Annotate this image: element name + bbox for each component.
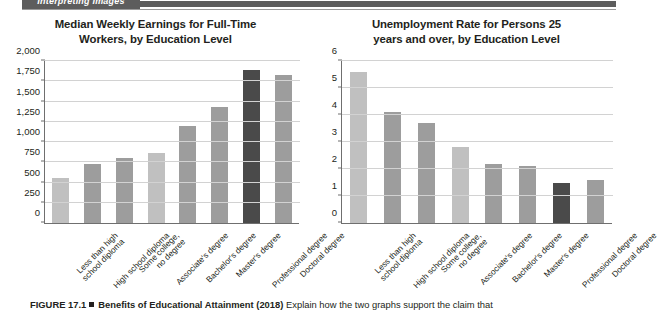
gridline [342,60,613,61]
unemployment-plot-wrap: 0123456 Less than highschool diplomaHigh… [311,57,622,237]
y-axis-tick-label: 1,250 [16,105,40,116]
unemployment-bar-group [342,61,612,223]
bar [553,183,570,224]
gridline [342,114,613,115]
bar [418,123,435,223]
category-label-slot: Less than highschool diploma [51,229,68,299]
y-axis-tick-label: 0 [332,207,337,218]
gridline [342,195,613,196]
banner-rule [140,1,616,7]
y-axis-tick [338,195,342,196]
figure-title: Benefits of Educational Attainment (2018… [98,299,283,310]
category-label-slot: Professional degree [243,229,260,299]
category-label-slot: Doctoral degree [587,229,604,299]
gridline [45,182,300,183]
y-axis-tick-label: 4 [332,99,337,110]
y-axis-tick [41,60,45,61]
figure-caption: FIGURE 17.1Benefits of Educational Attai… [30,298,610,311]
category-label-slot: Bachelor's degree [485,229,502,299]
y-axis-tick-label: 1 [332,180,337,191]
y-axis-tick-label: 1,500 [16,85,40,96]
gridline [45,101,300,102]
bar [52,178,69,223]
bar [587,180,604,223]
y-axis-tick-label: 1,000 [16,126,40,137]
gridline [45,60,300,61]
gridline [342,168,613,169]
y-axis-tick [338,222,342,223]
y-axis-tick-label: 6 [332,45,337,56]
category-label-slot: Some college,no degree [417,229,434,299]
category-label-slot: Associate's degree [451,229,468,299]
y-axis-tick [338,168,342,169]
earnings-chart-panel: Median Weekly Earnings for Full-Time Wor… [0,11,311,294]
figure-number: FIGURE 17.1 [30,299,86,310]
y-axis-tick-label: 500 [24,166,40,177]
y-axis-tick-label: 750 [24,146,40,157]
gridline [45,202,300,203]
category-label-slot: Some college,no degree [115,229,132,299]
category-label-slot: Doctoral degree [275,229,292,299]
unemployment-category-labels: Less than highschool diplomaHigh school … [341,229,612,299]
y-axis-tick-label: 0 [35,207,40,218]
gridline [342,141,613,142]
gridline [45,80,300,81]
bar [350,72,367,223]
category-label-slot: Associate's degree [147,229,164,299]
figure-charts: Median Weekly Earnings for Full-Time Wor… [0,11,623,294]
figure-prompt: Explain how the two graphs support the c… [286,299,493,310]
y-axis-tick [41,141,45,142]
y-axis-tick [41,201,45,202]
y-axis-tick-label: 3 [332,126,337,137]
bar [148,153,165,223]
y-axis-tick [338,87,342,88]
y-axis-tick [41,80,45,81]
y-axis-tick-label: 2,000 [16,45,40,56]
y-axis-tick [41,222,45,223]
earnings-chart-title: Median Weekly Earnings for Full-Time Wor… [0,11,311,47]
y-axis-tick [41,120,45,121]
unemployment-chart-panel: Unemployment Rate for Persons 25 years a… [311,11,622,294]
category-label-slot: Bachelor's degree [179,229,196,299]
earnings-bar-group [45,61,299,223]
bar [485,164,502,223]
earnings-plot-wrap: 02505007501,0001,2501,5001,7502,000 Less… [0,57,311,237]
gridline [342,87,613,88]
y-axis-tick [338,60,342,61]
y-axis-tick-label: 2 [332,153,337,164]
category-label-slot: Professional degree [553,229,570,299]
category-label-slot: Less than highschool diploma [349,229,366,299]
gridline [45,161,300,162]
y-axis-tick [338,114,342,115]
y-axis-tick-label: 5 [332,72,337,83]
y-axis-tick [41,161,45,162]
unemployment-chart-title: Unemployment Rate for Persons 25 years a… [311,11,622,47]
square-bullet-icon [89,302,94,307]
bar [211,107,228,223]
category-label-slot: High school diploma [83,229,100,299]
earnings-chart-title-line2: Workers, by Education Level [24,32,287,47]
earnings-category-labels: Less than highschool diplomaHigh school … [44,229,299,299]
unemployment-chart-title-line2: years and over, by Education Level [335,32,598,47]
earnings-chart-title-line1: Median Weekly Earnings for Full-Time [24,17,287,32]
gridline [45,121,300,122]
category-label-slot: Master's degree [519,229,536,299]
y-axis-tick-label: 250 [24,186,40,197]
category-label-slot: Master's degree [211,229,228,299]
bar [452,147,469,223]
y-axis-tick [41,181,45,182]
y-axis-tick [41,100,45,101]
bar [243,70,260,223]
y-axis-tick [338,141,342,142]
section-banner: Interpreting Images [0,0,623,11]
bar [84,164,101,223]
unemployment-chart-title-line1: Unemployment Rate for Persons 25 [335,17,598,32]
earnings-plot-area: 02505007501,0001,2501,5001,7502,000 [44,61,299,224]
banner-rule-thin [22,9,616,10]
unemployment-plot-area: 0123456 [341,61,612,224]
bar [116,158,133,223]
gridline [45,141,300,142]
category-label-slot: High school diploma [383,229,400,299]
y-axis-tick-label: 1,750 [16,65,40,76]
